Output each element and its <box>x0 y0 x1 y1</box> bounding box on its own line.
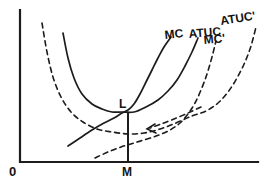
point-m-label: M <box>122 165 132 179</box>
origin-label: 0 <box>9 164 16 179</box>
left-arrowhead-icon <box>147 124 156 133</box>
atuc-prime-label: ATUC' <box>219 9 256 28</box>
mc-label: MC <box>164 26 184 42</box>
mc-curve <box>68 37 171 146</box>
figure-canvas: MC ATUC ATUC' MC' L M 0 <box>0 0 265 186</box>
shift-arrow-line <box>150 107 201 128</box>
mc-prime-label: MC' <box>203 31 226 47</box>
atuc-curve <box>63 33 198 112</box>
point-l-label: L <box>119 97 126 111</box>
cost-curves-figure: MC ATUC ATUC' MC' L M 0 <box>0 0 265 186</box>
mc-prime-curve <box>95 41 216 158</box>
